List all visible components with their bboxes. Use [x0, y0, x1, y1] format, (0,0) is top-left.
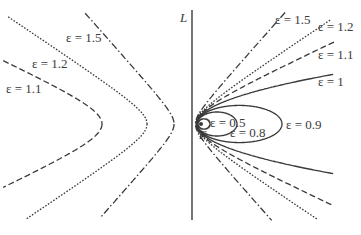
focus-label: F — [198, 128, 207, 142]
left-label-e-1-1: ε = 1.1 — [6, 81, 42, 96]
label-e-1-2: ε = 1.2 — [318, 19, 354, 34]
conic-e-1-2-far-branch — [26, 124, 147, 219]
conic-e-1-5-far-branch — [100, 124, 174, 218]
label-e-0-9: ε = 0.9 — [286, 117, 322, 132]
left-label-e-1-5: ε = 1.5 — [66, 30, 102, 45]
curves-group — [3, 13, 334, 221]
directrix-label: L — [179, 10, 187, 25]
label-e-0-8: ε = 0.8 — [230, 125, 266, 140]
left-label-e-1-2: ε = 1.2 — [32, 56, 68, 71]
label-e-1: ε = 1 — [318, 74, 344, 89]
label-e-1-1: ε = 1.1 — [318, 47, 354, 62]
label-e-1-5: ε = 1.5 — [275, 12, 311, 27]
conic-e-1-1-far-branch — [3, 124, 102, 187]
focus-point — [199, 122, 203, 126]
conic-diagram: L F ε = 0.5 ε = 0.8 ε = 0.9 ε = 1 ε = 1.… — [0, 0, 361, 235]
